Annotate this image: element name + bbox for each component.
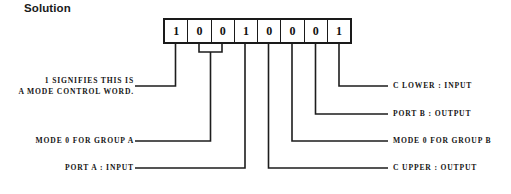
callout-mode-0-group-a: MODE 0 FOR GROUP A bbox=[14, 136, 134, 147]
bit-cell-6: 0 bbox=[188, 20, 211, 42]
leader-port-b-output bbox=[316, 44, 389, 114]
callout-port-a-input: PORT A : INPUT bbox=[14, 163, 134, 174]
leader-bracket-group-a bbox=[199, 44, 222, 52]
leader-c-lower-input bbox=[339, 44, 388, 86]
bit-cell-2: 0 bbox=[281, 20, 304, 42]
bit-cell-1: 0 bbox=[305, 20, 328, 42]
bit-cell-0: 1 bbox=[328, 20, 350, 42]
callout-mode-control-word: 1 SIGNIFIES THIS IS A MODE CONTROL WORD. bbox=[18, 76, 134, 97]
callout-c-upper-output: C UPPER : OUTPUT bbox=[393, 163, 477, 174]
bit-cell-3: 0 bbox=[258, 20, 281, 42]
leader-mode-control-word bbox=[135, 44, 176, 86]
callout-c-lower-input: C LOWER : INPUT bbox=[393, 81, 472, 92]
page-title: Solution bbox=[24, 2, 71, 14]
bit-cell-4: 1 bbox=[235, 20, 258, 42]
callout-mode-0-group-b: MODE 0 FOR GROUP B bbox=[393, 136, 491, 147]
bit-cell-7: 1 bbox=[165, 20, 188, 42]
callout-mode-control-word-line2: A MODE CONTROL WORD. bbox=[18, 87, 134, 98]
leader-port-a-input bbox=[135, 44, 245, 168]
bit-cell-5: 0 bbox=[212, 20, 235, 42]
leader-mode-0-group-b bbox=[292, 44, 388, 141]
leader-mode-0-group-a bbox=[135, 52, 211, 141]
leader-c-upper-output bbox=[269, 44, 389, 168]
control-word-box: 1 0 0 1 0 0 0 1 bbox=[163, 18, 352, 44]
callout-port-b-output: PORT B : OUTPUT bbox=[393, 109, 471, 120]
callout-mode-control-word-line1: 1 SIGNIFIES THIS IS bbox=[18, 76, 134, 87]
